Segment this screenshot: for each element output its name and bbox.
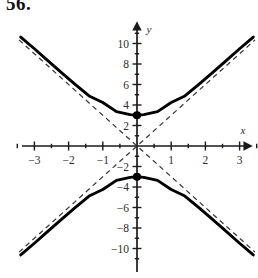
x-tick-label: −2 <box>62 154 74 166</box>
hyperbola-plot: −3−2−1123 108642−2−4−6−8−10 x y <box>0 0 258 278</box>
vertex-lower <box>133 173 141 181</box>
y-tick-label: 6 <box>123 79 129 91</box>
y-tick-label: −10 <box>111 243 129 255</box>
x-tick-label: 1 <box>168 154 174 166</box>
y-tick-label: −2 <box>117 161 129 173</box>
x-tick-label: 3 <box>237 154 243 166</box>
y-axis-label: y <box>146 23 152 35</box>
y-tick-label: 10 <box>118 38 130 50</box>
y-tick-label: 2 <box>123 120 129 132</box>
x-tick-label: −1 <box>97 154 109 166</box>
y-tick-label: −8 <box>117 222 129 234</box>
y-tick-label: −4 <box>117 181 129 193</box>
x-tick-label: −3 <box>28 154 40 166</box>
axes-group <box>22 24 250 272</box>
vertex-upper <box>133 111 141 119</box>
hyperbola-figure: 56. −3−2−1123 108642−2−4−6−8−10 x y <box>0 0 258 278</box>
y-tick-label: 8 <box>123 58 129 70</box>
y-tick-label: −6 <box>117 202 129 214</box>
y-tick-label: 4 <box>123 99 129 111</box>
x-axis-label: x <box>240 124 246 136</box>
x-tick-label: 2 <box>203 154 209 166</box>
